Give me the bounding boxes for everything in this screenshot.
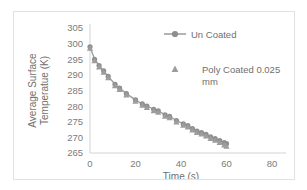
- y-axis-title-line1: Average Surface: [27, 53, 38, 128]
- legend-label-uncoated: Un Coated: [191, 29, 236, 40]
- y-tick-label: 305: [67, 22, 83, 33]
- x-axis-title: Time (s): [163, 171, 199, 179]
- y-tick-label: 290: [67, 69, 83, 80]
- x-tick-label: 60: [221, 158, 232, 169]
- x-tick-label: 20: [130, 158, 141, 169]
- y-tick-label: 265: [67, 147, 83, 158]
- legend-marker-triangle: [172, 66, 179, 72]
- legend-label-polycoated: Poly Coated 0.025: [202, 64, 280, 75]
- y-tick-label: 275: [67, 116, 83, 127]
- legend-marker-circle: [172, 31, 178, 37]
- y-tick-label: 300: [67, 38, 83, 49]
- legend-label-polycoated-line2: mm: [202, 76, 218, 87]
- y-tick-label: 295: [67, 54, 83, 65]
- y-tick-label: 285: [67, 85, 83, 96]
- y-tick-label: 270: [67, 132, 83, 143]
- chart-plot: 265270275280285290295300305020406080Time…: [14, 12, 294, 179]
- chart-container: 265270275280285290295300305020406080Time…: [13, 11, 295, 180]
- x-tick-label: 0: [87, 158, 92, 169]
- x-tick-label: 80: [267, 158, 278, 169]
- y-tick-label: 280: [67, 101, 83, 112]
- y-axis-title-line2: Temperatue (K): [39, 56, 50, 125]
- x-tick-label: 40: [176, 158, 187, 169]
- series-line-0: [90, 47, 227, 144]
